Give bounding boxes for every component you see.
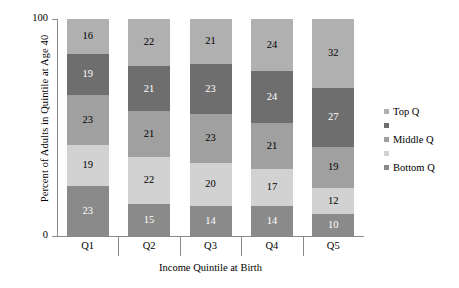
bar-segment[interactable]: 19 [67, 145, 109, 186]
x-axis-line [57, 236, 364, 237]
bar-stack: 1619231923 [67, 19, 109, 236]
bar-group-q5: 3227191210 [312, 19, 354, 236]
bar-group-q3: 2123232014 [190, 19, 232, 236]
legend-swatch [384, 137, 389, 142]
legend-swatch [384, 109, 389, 114]
bar-segment[interactable]: 24 [251, 19, 293, 71]
y-axis-title: Percent of Adults in Quintile at Age 40 [39, 9, 50, 229]
bar-segment-value: 27 [328, 112, 339, 123]
bar-segment-value: 21 [144, 84, 155, 95]
bar-segment-value: 32 [328, 48, 339, 59]
bar-segment[interactable]: 22 [128, 157, 170, 204]
bar-segment[interactable]: 21 [128, 66, 170, 111]
bar-segment-value: 21 [144, 129, 155, 140]
x-axis-separator [180, 236, 181, 256]
plot-area: 1619231923222121221521232320142424211714… [57, 19, 364, 236]
bar-segment-value: 22 [144, 37, 155, 48]
bar-segment[interactable]: 24 [251, 71, 293, 123]
bar-segment-value: 23 [205, 84, 216, 95]
legend-item[interactable]: Bottom Q [384, 160, 435, 174]
bar-segment[interactable]: 32 [312, 19, 354, 88]
bar-segment[interactable]: 21 [251, 123, 293, 169]
bar-segment[interactable]: 19 [312, 147, 354, 188]
bar-segment-value: 19 [82, 160, 93, 171]
bar-segment-value: 23 [82, 206, 93, 217]
bar-segment[interactable]: 14 [251, 206, 293, 236]
x-axis-title: Income Quintile at Birth [57, 262, 364, 273]
legend-item[interactable]: Middle Q [384, 132, 435, 146]
legend-item[interactable] [384, 146, 435, 160]
x-tick-label-q3: Q3 [180, 240, 241, 251]
bar-segment[interactable]: 22 [128, 19, 170, 66]
bar-segment-value: 15 [144, 215, 155, 226]
bar-group-q1: 1619231923 [67, 19, 109, 236]
bar-segment[interactable]: 23 [190, 64, 232, 113]
bar-segment-value: 19 [328, 162, 339, 173]
bar-stack: 2123232014 [190, 19, 232, 236]
bar-segment-value: 10 [328, 220, 339, 231]
legend-label: Middle Q [393, 134, 434, 145]
bar-group-q2: 2221212215 [128, 19, 170, 236]
bar-segment-value: 21 [267, 141, 278, 152]
bar-segment[interactable]: 12 [312, 188, 354, 214]
bar-segment[interactable]: 20 [190, 163, 232, 206]
legend-label: Bottom Q [393, 162, 435, 173]
bar-segment-value: 24 [267, 92, 278, 103]
bar-segment-value: 20 [205, 179, 216, 190]
stacked-bar-chart: Percent of Adults in Quintile at Age 40 … [0, 0, 459, 288]
x-axis-separator [241, 236, 242, 256]
bar-segment[interactable]: 21 [128, 111, 170, 156]
bar-segment-value: 17 [267, 182, 278, 193]
bar-segment[interactable]: 23 [67, 95, 109, 145]
bar-stack: 2424211714 [251, 19, 293, 236]
bar-segment[interactable]: 10 [312, 214, 354, 236]
bar-segment[interactable]: 23 [67, 186, 109, 236]
bar-segment[interactable]: 21 [190, 19, 232, 64]
bar-segment-value: 12 [328, 196, 339, 207]
bar-segment-value: 22 [144, 175, 155, 186]
legend-item[interactable]: Top Q [384, 104, 435, 118]
x-tick-label-q4: Q4 [241, 240, 302, 251]
legend-swatch [384, 151, 389, 156]
bar-segment-value: 14 [267, 216, 278, 227]
legend-swatch [384, 123, 389, 128]
x-axis-separator [303, 236, 304, 256]
y-tick-label-bottom: 0 [8, 229, 48, 240]
x-tick-label-q5: Q5 [303, 240, 364, 251]
bar-segment-value: 24 [267, 40, 278, 51]
bar-segment-value: 21 [205, 36, 216, 47]
x-tick-label-q1: Q1 [57, 240, 118, 251]
legend-label: Top Q [393, 106, 419, 117]
legend-item[interactable] [384, 118, 435, 132]
bar-segment[interactable]: 16 [67, 19, 109, 54]
x-axis-separator [118, 236, 119, 256]
bar-segment[interactable]: 17 [251, 169, 293, 206]
bar-segment-value: 23 [205, 133, 216, 144]
bar-segment[interactable]: 14 [190, 206, 232, 236]
bar-segment[interactable]: 27 [312, 88, 354, 147]
bar-group-q4: 2424211714 [251, 19, 293, 236]
bar-stack: 2221212215 [128, 19, 170, 236]
bar-segment[interactable]: 23 [190, 114, 232, 163]
bar-segment[interactable]: 19 [67, 54, 109, 95]
bar-segment-value: 19 [82, 69, 93, 80]
y-tick-label-top: 100 [8, 12, 48, 23]
bar-segment[interactable]: 15 [128, 204, 170, 236]
bar-stack: 3227191210 [312, 19, 354, 236]
legend: Top QMiddle QBottom Q [384, 104, 435, 174]
x-tick-label-q2: Q2 [118, 240, 179, 251]
bar-segment-value: 16 [82, 31, 93, 42]
legend-swatch [384, 165, 389, 170]
bar-segment-value: 14 [205, 216, 216, 227]
bar-segment-value: 23 [82, 115, 93, 126]
